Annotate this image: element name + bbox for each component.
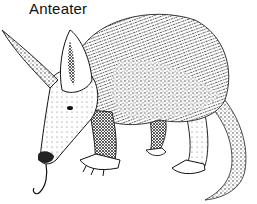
back-foot-far	[146, 148, 166, 156]
front-leg	[90, 110, 116, 160]
eye	[67, 106, 73, 110]
anteater-illustration	[0, 0, 257, 204]
ear-far	[2, 30, 58, 88]
ear-near	[60, 30, 92, 92]
back-leg-far	[150, 118, 166, 152]
tongue	[33, 164, 46, 194]
